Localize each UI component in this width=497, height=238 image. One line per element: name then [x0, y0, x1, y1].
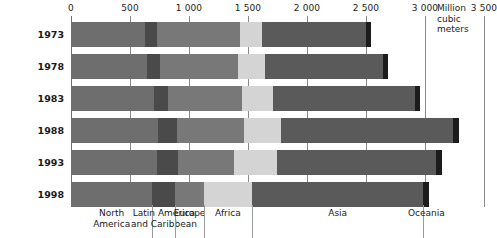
gridline-3500: [484, 16, 485, 207]
axis-unit-line-2: cubic: [437, 14, 469, 25]
bar-segment-1973-europe: [157, 22, 240, 47]
bar-segment-1988-north-america: [71, 118, 158, 143]
bar-segment-1993-asia: [277, 150, 436, 175]
bar-segment-1973-africa: [240, 22, 262, 47]
axis-unit-label-text: Millioncubicmeters: [437, 3, 469, 35]
bar-1993: [71, 150, 442, 175]
legend-label-oceania: Oceania: [368, 208, 484, 219]
year-label-1973: 1973: [4, 30, 64, 40]
bar-segment-1978-africa: [238, 54, 265, 79]
bar-segment-1978-europe: [160, 54, 238, 79]
bar-segment-1973-oceania: [366, 22, 371, 47]
year-label-1983: 1983: [4, 94, 64, 104]
x-axis-tick-label-1000: 1 000: [176, 3, 202, 13]
bar-segment-1998-asia: [252, 182, 423, 207]
bar-segment-1998-latin-america-and-caribbean: [152, 182, 175, 207]
bar-segment-1983-oceania: [415, 86, 420, 111]
year-label-1988: 1988: [4, 126, 64, 136]
axis-unit-line-3: meters: [437, 24, 469, 35]
bar-segment-1988-oceania: [453, 118, 459, 143]
bar-1983: [71, 86, 420, 111]
bar-1978: [71, 54, 388, 79]
bar-segment-1973-north-america: [71, 22, 145, 47]
bar-segment-1998-oceania: [423, 182, 429, 207]
bar-segment-1998-europe: [175, 182, 203, 207]
bar-segment-1993-north-america: [71, 150, 157, 175]
bar-1973: [71, 22, 371, 47]
x-axis-tick-label-500: 500: [121, 3, 138, 13]
bar-segment-1998-north-america: [71, 182, 152, 207]
bar-segment-1993-latin-america-and-caribbean: [157, 150, 178, 175]
bar-segment-1973-latin-america-and-caribbean: [145, 22, 157, 47]
bar-1988: [71, 118, 459, 143]
bar-segment-1983-asia: [273, 86, 415, 111]
x-axis-tick-label-3000: 3 000: [412, 3, 438, 13]
gridline-3000: [425, 16, 426, 207]
x-axis-tick-label-0: 0: [68, 3, 74, 13]
bar-segment-1983-africa: [242, 86, 274, 111]
legend-divider-3: [252, 205, 253, 238]
bar-segment-1983-latin-america-and-caribbean: [154, 86, 169, 111]
bar-segment-1988-africa: [244, 118, 281, 143]
year-label-1978: 1978: [4, 62, 64, 72]
bar-segment-1998-africa: [204, 182, 252, 207]
bar-segment-1988-latin-america-and-caribbean: [158, 118, 177, 143]
bar-segment-1978-latin-america-and-caribbean: [147, 54, 161, 79]
x-axis-tick-label-2500: 2 500: [353, 3, 379, 13]
bar-segment-1993-africa: [234, 150, 276, 175]
bar-segment-1988-europe: [177, 118, 244, 143]
x-axis-tick-label-1500: 1 500: [235, 3, 261, 13]
year-label-1998: 1998: [4, 190, 64, 200]
bar-segment-1978-asia: [265, 54, 383, 79]
bar-segment-1983-europe: [168, 86, 241, 111]
bar-segment-1983-north-america: [71, 86, 154, 111]
bar-segment-1988-asia: [281, 118, 453, 143]
axis-unit-line-1: Million: [437, 3, 469, 14]
bar-1998: [71, 182, 429, 207]
x-axis-tick-label-2000: 2 000: [294, 3, 320, 13]
legend-label-africa: Africa: [170, 208, 286, 219]
bar-segment-1993-europe: [178, 150, 235, 175]
bar-segment-1978-north-america: [71, 54, 147, 79]
year-label-1993: 1993: [4, 158, 64, 168]
bar-segment-1978-oceania: [383, 54, 388, 79]
bar-segment-1993-oceania: [436, 150, 442, 175]
bar-segment-1973-asia: [262, 22, 366, 47]
x-axis-tick-label-3500: 3 500: [471, 3, 497, 13]
